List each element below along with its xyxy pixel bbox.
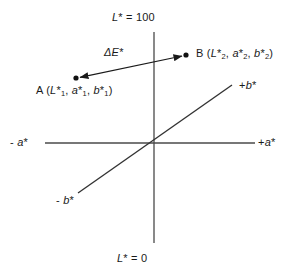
a-negative-star: *: [23, 136, 27, 148]
point-b-name: B: [196, 47, 204, 59]
point-a-coord-a-star: *: [78, 84, 82, 96]
point-a-dot: [73, 75, 78, 80]
point-a-label: A (L*1, a*1, b*1): [36, 84, 113, 96]
delta-e-symbol: ΔE: [104, 46, 119, 58]
point-b-dot: [183, 52, 188, 57]
a-positive-star: *: [271, 136, 275, 148]
point-a-coord-a-sub: 1: [83, 89, 87, 98]
b-negative-star: *: [69, 194, 73, 206]
lightness-bottom-value: = 0: [128, 252, 147, 264]
lightness-top-value: = 100: [123, 11, 155, 23]
b-positive-sign: +: [239, 79, 246, 91]
b-positive-label: +b*: [239, 79, 256, 91]
point-a-coord-b-sub: 1: [104, 89, 108, 98]
point-b-coord-a-sub: 2: [243, 52, 247, 61]
point-b-open-paren: (: [204, 47, 211, 59]
point-b-coord-l-sub: 2: [221, 52, 225, 61]
b-star-axis-line: [78, 85, 232, 193]
point-a-coord-l-sub: 1: [61, 89, 65, 98]
a-positive-sign: +: [258, 136, 265, 148]
lightness-bottom-label: L* = 0: [117, 252, 147, 264]
cielab-diagram: L* = 100 L* = 0 - a* +a* +b* - b* ΔE* A …: [0, 0, 303, 277]
delta-e-arrow: [80, 56, 182, 77]
b-negative-label: - b*: [56, 194, 74, 206]
point-a-close-paren: ): [109, 84, 113, 96]
point-a-open-paren: (: [43, 84, 50, 96]
a-positive-label: +a*: [258, 136, 275, 148]
point-b-close-paren: ): [269, 47, 273, 59]
point-b-label: B (L*2, a*2, b*2): [196, 47, 273, 59]
a-negative-label: - a*: [10, 136, 28, 148]
lightness-top-label: L* = 100: [112, 11, 155, 23]
point-b-coord-b-sub: 2: [265, 52, 269, 61]
delta-e-label: ΔE*: [104, 46, 124, 58]
b-positive-star: *: [252, 79, 256, 91]
delta-e-star: *: [119, 46, 123, 58]
point-a-name: A: [36, 84, 43, 96]
